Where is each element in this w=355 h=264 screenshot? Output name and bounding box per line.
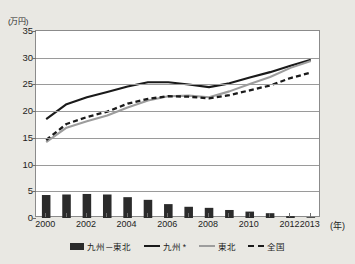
legend-swatch-icon: [70, 243, 84, 250]
gridline: [36, 165, 319, 166]
x-axis-tick-label: 2013: [300, 219, 320, 229]
y-axis-tick-mark: [32, 111, 36, 112]
legend-swatch-icon: [144, 245, 160, 247]
y-axis-tick-mark: [32, 58, 36, 59]
legend-swatch-icon: [248, 245, 264, 247]
chart-figure: (万円) 05101520253035 20002002200420062008…: [0, 0, 355, 264]
legend-item[interactable]: 東北: [199, 240, 236, 252]
bar: [307, 217, 316, 218]
x-axis-tick-label: 2002: [76, 219, 96, 229]
x-axis-tick-label: 2010: [239, 219, 259, 229]
x-axis-tick-mark: [106, 213, 107, 217]
y-axis-tick-label: 10: [3, 158, 33, 169]
x-axis-tick-mark: [269, 213, 270, 217]
y-axis-tick-label: 0: [3, 212, 33, 223]
x-axis-tick-label: 2004: [117, 219, 137, 229]
y-axis-tick-label: 5: [3, 185, 33, 196]
gridline: [36, 191, 319, 192]
y-axis-tick-mark: [32, 191, 36, 192]
x-axis-tick-mark: [310, 213, 311, 217]
y-axis-tick-labels: 05101520253035: [0, 30, 33, 217]
x-axis-tick-mark: [208, 213, 209, 217]
y-axis-tick-mark: [32, 31, 36, 32]
x-axis-tick-mark: [45, 213, 46, 217]
x-axis-tick-mark: [249, 213, 250, 217]
y-axis-tick-mark: [32, 165, 36, 166]
legend-label: 九州 *: [163, 240, 186, 252]
x-axis-tick-mark: [147, 213, 148, 217]
legend-label: 全国: [267, 240, 285, 252]
series-line: [46, 61, 311, 142]
x-axis-tick-mark: [127, 213, 128, 217]
x-axis-tick-mark: [188, 213, 189, 217]
gridline: [36, 111, 319, 112]
legend-label: 九州－東北: [87, 240, 131, 252]
legend-item[interactable]: 全国: [248, 240, 285, 252]
chart-legend: 九州－東北九州 *東北全国: [0, 240, 355, 252]
plot-area: [35, 30, 320, 217]
legend-swatch-icon: [199, 245, 215, 247]
x-axis-tick-label: 2000: [35, 219, 55, 229]
legend-item[interactable]: 九州－東北: [70, 240, 131, 252]
x-axis-tick-mark: [86, 213, 87, 217]
legend-label: 東北: [218, 240, 236, 252]
gridline: [36, 138, 319, 139]
x-axis-unit-label: (年): [330, 219, 345, 232]
y-axis-tick-label: 20: [3, 105, 33, 116]
x-axis-tick-labels: 20002002200420062008201020122013: [35, 219, 320, 233]
x-axis-tick-mark: [167, 213, 168, 217]
y-axis-tick-mark: [32, 84, 36, 85]
chart-canvas: [36, 31, 321, 218]
x-axis-tick-mark: [228, 213, 229, 217]
y-axis-tick-label: 30: [3, 51, 33, 62]
x-axis-tick-marks: [35, 212, 320, 217]
x-axis-tick-label: 2006: [157, 219, 177, 229]
y-axis-tick-label: 15: [3, 131, 33, 142]
x-axis-tick-mark: [289, 213, 290, 217]
x-axis-tick-label: 2008: [198, 219, 218, 229]
x-axis-tick-label: 2012: [279, 219, 299, 229]
gridline: [36, 84, 319, 85]
y-axis-tick-label: 25: [3, 78, 33, 89]
y-axis-tick-label: 35: [3, 25, 33, 36]
x-axis-tick-mark: [66, 213, 67, 217]
gridline: [36, 58, 319, 59]
y-axis-tick-mark: [32, 138, 36, 139]
legend-item[interactable]: 九州 *: [144, 240, 186, 252]
